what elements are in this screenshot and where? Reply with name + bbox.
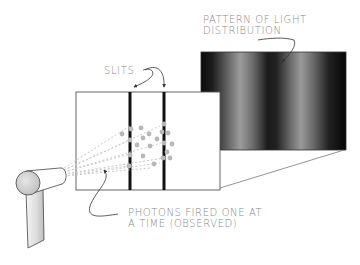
photons-label-line1: PHOTONS FIRED ONE AT [128, 207, 262, 218]
photon-gun [16, 168, 66, 248]
pattern-label: PATTERN OF LIGHT DISTRIBUTION [203, 14, 307, 36]
slits-label: SLITS [104, 65, 134, 76]
barrier [76, 92, 220, 190]
detection-screen [201, 52, 346, 150]
gun-stand [26, 188, 44, 248]
slits-arrow-left [134, 69, 153, 87]
photons-label: PHOTONS FIRED ONE AT A TIME (OBSERVED) [128, 207, 262, 229]
photons-label-line2: A TIME (OBSERVED) [128, 218, 262, 229]
slits-arrow-right [145, 67, 164, 87]
pattern-label-line2: DISTRIBUTION [203, 25, 307, 36]
gun-lens [16, 171, 40, 195]
pattern-label-line1: PATTERN OF LIGHT [203, 14, 307, 25]
perspective-line [220, 150, 344, 188]
